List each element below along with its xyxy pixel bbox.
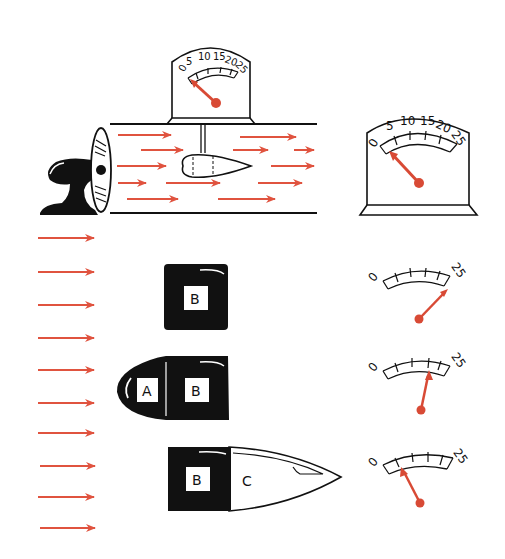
segment-label-b: B: [190, 291, 200, 307]
gauge-max-label: 25: [450, 446, 470, 467]
gauge-streamlined-tail-block: 0 25: [365, 446, 470, 508]
streamlined-body: [182, 155, 251, 178]
reference-drag-gauge: 0 5 10 15 20 25: [360, 114, 477, 215]
shape-flat-block: B: [164, 264, 228, 330]
segment-label-b: B: [192, 472, 202, 488]
support-rod: [201, 124, 205, 153]
gauge-flat-block: 0 25: [365, 260, 468, 324]
gauge-min-label: 0: [365, 359, 381, 374]
gauge-max-label: 25: [448, 260, 468, 281]
tick-label: 5: [186, 56, 192, 67]
gauge-rounded-nose-block: 0 25: [365, 350, 468, 415]
segment-label-b: B: [191, 383, 201, 399]
shape-rounded-nose-block: A B: [117, 356, 229, 420]
gauge-min-label: 0: [365, 269, 381, 284]
tunnel-drag-gauge: 0 5 10 15 20 25: [167, 48, 255, 124]
tick-label: 10: [198, 51, 211, 62]
gauge-max-label: 25: [448, 350, 468, 371]
tick-label: 5: [386, 119, 394, 133]
segment-label-c: C: [242, 473, 252, 489]
gauge-min-label: 0: [365, 454, 381, 469]
wind-tunnel-diagram: 0 5 10 15 20 25: [0, 0, 505, 559]
shape-streamlined-tail-block: B C: [168, 447, 341, 511]
tick-label: 15: [420, 114, 435, 128]
electric-fan: [40, 128, 111, 215]
tick-label: 10: [400, 114, 415, 128]
segment-label-a: A: [142, 383, 152, 399]
airflow-arrows: [38, 238, 95, 528]
